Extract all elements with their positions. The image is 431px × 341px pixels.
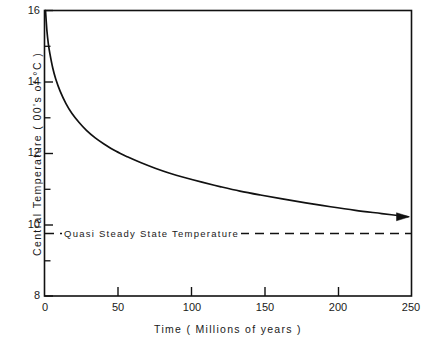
plot-area: [0, 0, 431, 341]
curve-arrowhead-icon: [397, 213, 410, 221]
temperature-curve: [46, 11, 409, 217]
plot-frame: [45, 11, 412, 297]
quasi-steady-state-label: Quasi Steady State Temperature: [62, 228, 241, 239]
y-major-ticks: [45, 11, 54, 297]
chart-figure: Central Temperature ( 00's of °C ) 16 14…: [0, 0, 431, 341]
x-major-ticks: [118, 287, 339, 296]
